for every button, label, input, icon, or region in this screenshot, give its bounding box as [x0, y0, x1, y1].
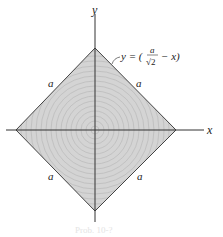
- equation-leader-line: [112, 57, 120, 64]
- side-label-upper-left: a: [48, 77, 54, 89]
- side-label-lower-right: a: [137, 170, 143, 182]
- diamond-figure: y x a a a a y = ( a √2 − x) Prob. 10-?: [0, 0, 223, 237]
- svg-text:y = (: y = (: [120, 50, 144, 63]
- svg-text:√2: √2: [146, 57, 155, 67]
- x-axis-label: x: [206, 123, 213, 137]
- svg-text:a: a: [150, 45, 155, 55]
- edge-equation: y = ( a √2 − x): [120, 45, 180, 67]
- y-axis-label: y: [91, 3, 98, 17]
- side-label-upper-right: a: [136, 77, 142, 89]
- side-label-lower-left: a: [48, 170, 54, 182]
- figure-caption: Prob. 10-?: [75, 225, 113, 235]
- svg-text:− x): − x): [161, 50, 180, 63]
